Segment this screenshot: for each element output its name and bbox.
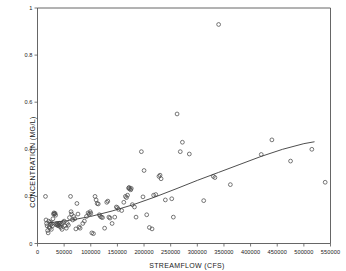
x-tick-label: 150000 <box>108 249 127 255</box>
data-point <box>159 177 163 181</box>
x-tick-label: 500000 <box>294 249 313 255</box>
data-point <box>107 215 111 219</box>
data-point <box>122 200 126 204</box>
data-point <box>108 216 112 220</box>
data-point <box>76 212 80 216</box>
data-point <box>139 150 143 154</box>
y-tick-label: 0.8 <box>24 52 32 58</box>
x-tick-label: 50000 <box>56 249 72 255</box>
axis-frame <box>38 8 331 244</box>
x-tick-label: 200000 <box>134 249 153 255</box>
data-point <box>72 215 76 219</box>
data-point <box>51 217 55 221</box>
data-point <box>46 231 50 235</box>
data-point <box>181 140 185 144</box>
data-point <box>323 180 327 184</box>
data-point <box>270 138 274 142</box>
data-point <box>289 159 293 163</box>
y-tick-label: 1 <box>29 5 32 11</box>
x-axis-ticks: 0500001000001500002000002500003000003500… <box>36 244 340 256</box>
data-point <box>187 152 191 156</box>
data-point <box>142 169 146 173</box>
data-point <box>217 23 221 27</box>
data-point <box>170 197 174 201</box>
data-point <box>171 215 175 219</box>
x-tick-label: 250000 <box>161 249 180 255</box>
data-point <box>202 199 206 203</box>
data-point <box>134 215 138 219</box>
x-tick-label: 450000 <box>268 249 287 255</box>
data-point <box>69 195 73 199</box>
data-point <box>141 195 145 199</box>
data-point <box>70 212 74 216</box>
x-tick-label: 400000 <box>241 249 260 255</box>
y-axis-label: CONCENTRATION (MG/L) <box>29 72 39 252</box>
x-axis-label: STREAMFLOW (CFS) <box>0 262 346 269</box>
data-point <box>75 202 79 206</box>
x-tick-label: 300000 <box>188 249 207 255</box>
data-point <box>310 147 314 151</box>
data-point <box>110 222 114 226</box>
data-point <box>133 205 137 209</box>
data-point <box>228 183 232 187</box>
plot-canvas: 00.20.40.60.81 0500001000001500002000002… <box>0 0 346 271</box>
data-point <box>44 195 48 199</box>
data-point <box>175 112 179 116</box>
data-point <box>163 198 167 202</box>
data-point <box>145 213 149 217</box>
x-tick-label: 100000 <box>81 249 100 255</box>
data-point-group <box>44 23 327 236</box>
data-point <box>103 226 107 230</box>
data-point <box>113 215 117 219</box>
data-point <box>178 150 182 154</box>
x-tick-label: 550000 <box>321 249 340 255</box>
x-tick-label: 350000 <box>214 249 233 255</box>
scatter-plot-figure: 00.20.40.60.81 0500001000001500002000002… <box>0 0 346 271</box>
